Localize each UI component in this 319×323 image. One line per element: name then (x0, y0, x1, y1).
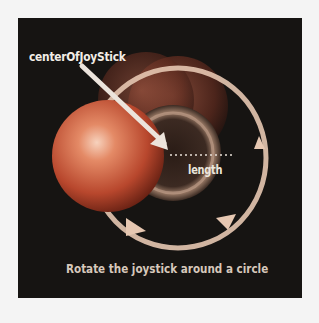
joystick-sphere (52, 100, 164, 212)
caption: Rotate the joystick around a circle (66, 261, 268, 276)
length-label: length (188, 163, 222, 177)
center-of-joystick-label: centerOfJoyStick (29, 49, 126, 64)
diagram-panel: centerOfJoyStick length Rotate the joyst… (18, 18, 302, 298)
arrowhead-icon (126, 218, 146, 236)
